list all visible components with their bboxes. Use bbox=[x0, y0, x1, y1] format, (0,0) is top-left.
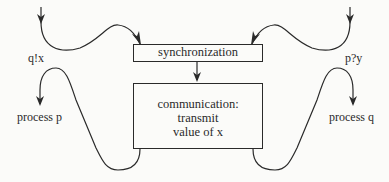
right-entry-arrow bbox=[251, 7, 354, 50]
communication-line-3: value of x bbox=[134, 125, 262, 139]
synchronization-box: synchronization bbox=[133, 44, 263, 62]
diagram-canvas: synchronization communication: transmit … bbox=[0, 0, 389, 182]
left-process-label: process p bbox=[17, 110, 62, 125]
synchronization-label: synchronization bbox=[158, 45, 238, 59]
right-action-label: p?y bbox=[345, 51, 362, 66]
communication-line-1: communication: bbox=[134, 97, 262, 111]
communication-line-2: transmit bbox=[134, 111, 262, 125]
left-action-label: q!x bbox=[28, 51, 44, 66]
right-process-label: process q bbox=[329, 110, 374, 125]
communication-box: communication: transmit value of x bbox=[133, 83, 263, 149]
left-entry-arrow bbox=[37, 7, 141, 50]
sync-to-comm-arrow bbox=[193, 62, 201, 82]
